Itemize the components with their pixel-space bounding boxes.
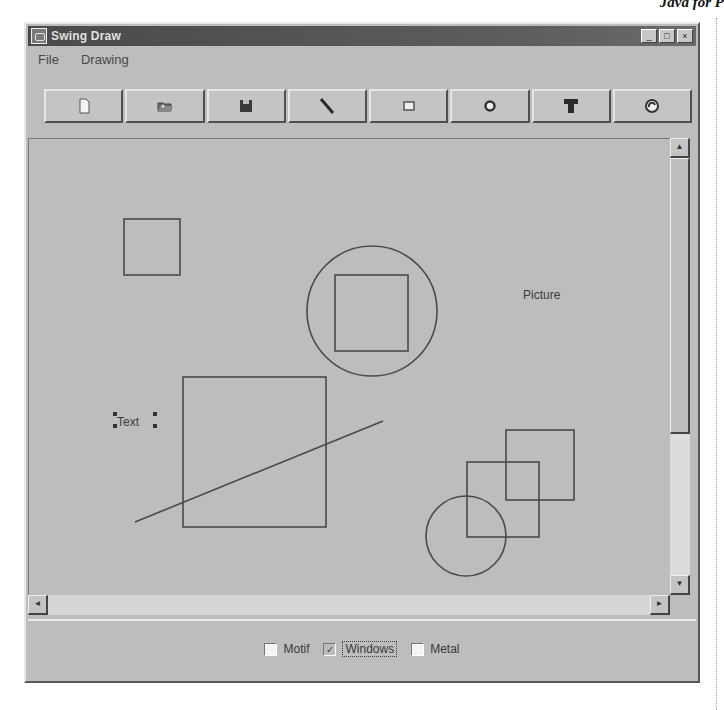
new-document-icon bbox=[74, 96, 94, 116]
maximize-button[interactable]: □ bbox=[659, 29, 675, 43]
laf-option-windows[interactable]: ✓ Windows bbox=[323, 641, 397, 657]
rectangle-tool-icon bbox=[399, 96, 419, 116]
shape-text-label[interactable]: Text bbox=[117, 415, 140, 429]
line-tool-button[interactable] bbox=[288, 89, 367, 123]
window-controls: _ □ × bbox=[641, 29, 693, 43]
menu-file[interactable]: File bbox=[38, 52, 59, 67]
page-margin-rule bbox=[716, 18, 717, 710]
shape-circle-small[interactable] bbox=[426, 496, 506, 576]
minimize-button[interactable]: _ bbox=[641, 29, 657, 43]
shape-rect-in-circle[interactable] bbox=[335, 275, 408, 351]
shape-circle-large[interactable] bbox=[307, 246, 437, 376]
motif-checkbox[interactable] bbox=[264, 643, 277, 656]
title-bar[interactable]: Swing Draw _ □ × bbox=[28, 26, 696, 46]
shape-line[interactable] bbox=[135, 421, 383, 522]
canvas-shapes[interactable]: Text Picture bbox=[29, 139, 670, 595]
look-and-feel-panel: Motif ✓ Windows Metal bbox=[28, 619, 696, 677]
circle-tool-icon bbox=[480, 96, 500, 116]
menu-bar: File Drawing bbox=[28, 48, 696, 70]
save-disk-icon bbox=[236, 96, 256, 116]
menu-drawing[interactable]: Drawing bbox=[81, 52, 129, 67]
vertical-scrollbar[interactable]: ▲ ▼ bbox=[670, 138, 690, 595]
picture-tool-icon bbox=[642, 96, 662, 116]
picture-tool-button[interactable] bbox=[613, 89, 692, 123]
new-button[interactable] bbox=[44, 89, 123, 123]
app-icon[interactable] bbox=[31, 28, 47, 44]
scroll-up-button[interactable]: ▲ bbox=[670, 138, 690, 158]
metal-label: Metal bbox=[430, 642, 459, 656]
shape-rect-small[interactable] bbox=[124, 219, 180, 275]
book-running-header: Java for P bbox=[660, 0, 724, 11]
scroll-left-button[interactable]: ◄ bbox=[28, 595, 48, 615]
shape-picture-label[interactable]: Picture bbox=[523, 288, 561, 302]
scrollbar-corner bbox=[670, 595, 690, 615]
laf-option-metal[interactable]: Metal bbox=[411, 642, 459, 656]
toolbar bbox=[44, 89, 692, 123]
windows-checkbox[interactable]: ✓ bbox=[323, 643, 336, 656]
metal-checkbox[interactable] bbox=[411, 643, 424, 656]
save-button[interactable] bbox=[207, 89, 286, 123]
vertical-scroll-thumb[interactable] bbox=[670, 158, 690, 434]
scroll-right-button[interactable]: ► bbox=[650, 595, 670, 615]
text-tool-icon bbox=[561, 96, 581, 116]
motif-label: Motif bbox=[283, 642, 309, 656]
rectangle-tool-button[interactable] bbox=[369, 89, 448, 123]
open-button[interactable] bbox=[125, 89, 204, 123]
circle-tool-button[interactable] bbox=[450, 89, 529, 123]
shape-rect-big[interactable] bbox=[183, 377, 326, 527]
text-tool-button[interactable] bbox=[532, 89, 611, 123]
window-title: Swing Draw bbox=[51, 29, 121, 43]
swing-draw-window: Swing Draw _ □ × File Drawing bbox=[24, 22, 700, 683]
laf-option-motif[interactable]: Motif bbox=[264, 642, 309, 656]
line-tool-icon bbox=[317, 96, 337, 116]
open-folder-icon bbox=[155, 96, 175, 116]
drawing-canvas[interactable]: Text Picture bbox=[28, 138, 670, 595]
shape-rect-upper-right[interactable] bbox=[506, 430, 574, 500]
close-button[interactable]: × bbox=[677, 29, 693, 43]
windows-label: Windows bbox=[342, 641, 397, 657]
horizontal-scrollbar[interactable]: ◄ ► bbox=[28, 595, 670, 615]
scroll-down-button[interactable]: ▼ bbox=[670, 575, 690, 595]
